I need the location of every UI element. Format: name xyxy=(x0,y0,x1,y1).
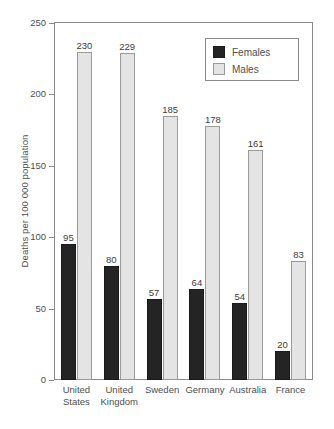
y-tick-label: 250 xyxy=(30,17,46,28)
x-label-united-kingdom: United Kingdom xyxy=(98,384,141,408)
x-label-germany: Germany xyxy=(184,384,227,396)
legend-item-males: Males xyxy=(213,61,298,77)
chart-legend: Females Males xyxy=(205,38,299,81)
x-axis-labels: United StatesUnited KingdomSwedenGermany… xyxy=(55,384,312,424)
bar-value-label: 230 xyxy=(76,40,92,51)
y-tick-label: 150 xyxy=(30,160,46,171)
bar-group: 95230 xyxy=(55,23,98,380)
y-tick-200: 200 xyxy=(0,94,54,95)
bar-females[interactable]: 54 xyxy=(232,303,247,380)
legend-label-females: Females xyxy=(232,47,270,58)
bar-males[interactable]: 178 xyxy=(205,126,220,380)
bar-value-label: 54 xyxy=(234,291,245,302)
bar-value-label: 178 xyxy=(205,114,221,125)
bar-value-label: 64 xyxy=(192,277,203,288)
x-label-united-states: United States xyxy=(55,384,98,408)
x-label-australia: Australia xyxy=(226,384,269,396)
bar-value-label: 95 xyxy=(63,232,74,243)
bar-value-label: 161 xyxy=(248,138,264,149)
y-tick-150: 150 xyxy=(0,166,54,167)
legend-item-females: Females xyxy=(213,44,298,60)
bar-males[interactable]: 230 xyxy=(77,52,92,380)
bar-females[interactable]: 95 xyxy=(61,244,76,380)
y-tick-mark xyxy=(49,380,54,381)
y-tick-250: 250 xyxy=(0,23,54,24)
bar-value-label: 83 xyxy=(293,249,304,260)
bar-females[interactable]: 57 xyxy=(147,299,162,380)
bar-value-label: 80 xyxy=(106,254,117,265)
legend-swatch-females-icon xyxy=(213,46,225,58)
x-label-france: France xyxy=(269,384,312,396)
bar-value-label: 229 xyxy=(119,41,135,52)
bar-value-label: 57 xyxy=(149,287,160,298)
bar-females[interactable]: 20 xyxy=(275,351,290,380)
bar-females[interactable]: 80 xyxy=(104,266,119,380)
y-tick-50: 50 xyxy=(0,309,54,310)
y-tick-0: 0 xyxy=(0,380,54,381)
y-tick-label: 100 xyxy=(30,231,46,242)
bar-males[interactable]: 185 xyxy=(163,116,178,380)
y-tick-100: 100 xyxy=(0,237,54,238)
grouped-bar-chart: Deaths per 100 000 population 0501001502… xyxy=(0,0,334,429)
y-tick-label: 0 xyxy=(41,374,46,385)
x-label-sweden: Sweden xyxy=(141,384,184,396)
bar-value-label: 185 xyxy=(162,104,178,115)
y-axis-title: Deaths per 100 000 population xyxy=(18,22,32,380)
bar-females[interactable]: 64 xyxy=(189,289,204,380)
bar-males[interactable]: 161 xyxy=(248,150,263,380)
bar-group: 80229 xyxy=(98,23,141,380)
bar-value-label: 20 xyxy=(277,339,288,350)
legend-label-males: Males xyxy=(232,64,259,75)
legend-swatch-males-icon xyxy=(213,63,225,75)
bar-males[interactable]: 229 xyxy=(120,53,135,380)
y-tick-label: 50 xyxy=(35,303,46,314)
bar-males[interactable]: 83 xyxy=(291,261,306,380)
bar-group: 57185 xyxy=(141,23,184,380)
y-tick-label: 200 xyxy=(30,88,46,99)
